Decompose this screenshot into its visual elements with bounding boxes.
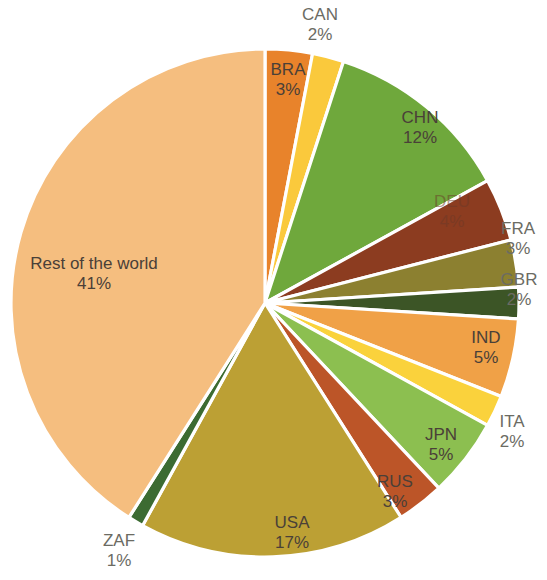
pie-chart: BRA3%CAN2%CHN12%DEU4%FRA3%GBR2%IND5%ITA2… — [0, 0, 547, 580]
pie-chart-canvas — [0, 0, 547, 580]
